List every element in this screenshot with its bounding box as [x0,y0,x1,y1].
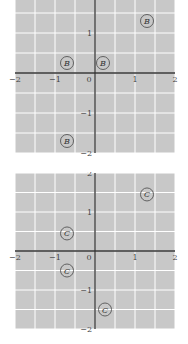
plot-canvas-b: −2−10121−1−2BBBB [0,0,188,170]
x-tick-label: −1 [49,75,61,84]
y-tick-label: 1 [87,29,92,38]
svg-text:B: B [99,59,106,68]
x-tick-label: −1 [49,253,61,262]
y-tick-label: −1 [80,109,92,118]
scatter-plot-c: −2−101221−1−2CCCC [0,172,188,344]
y-tick-label: 1 [87,208,92,217]
svg-text:B: B [63,137,70,146]
svg-text:B: B [143,17,150,26]
y-tick-label: 2 [87,172,92,178]
scatter-plot-b: −2−10121−1−2BBBB [0,0,188,170]
x-tick-label: 1 [132,253,137,262]
svg-text:C: C [64,267,70,276]
x-tick-label: −2 [9,253,21,262]
x-tick-label: −2 [9,75,21,84]
svg-text:C: C [102,306,108,315]
x-tick-label: 0 [86,253,91,262]
y-tick-label: −2 [80,325,92,334]
svg-text:B: B [63,59,70,68]
x-tick-label: 2 [172,253,177,262]
plot-canvas-c: −2−101221−1−2CCCC [0,172,188,344]
svg-text:C: C [144,190,150,199]
x-tick-label: 1 [132,75,137,84]
y-tick-label: −1 [80,286,92,295]
y-tick-label: −2 [80,149,92,158]
svg-text:C: C [64,229,70,238]
x-tick-label: 2 [172,75,177,84]
x-tick-label: 0 [86,75,91,84]
